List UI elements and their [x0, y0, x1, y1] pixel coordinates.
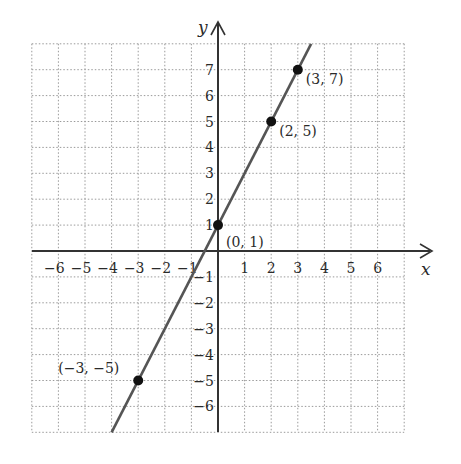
y-tick-label: −1 — [193, 269, 214, 285]
coordinate-plane: x y −6−5−4−3−2−1123456 7654321−1−2−3−4−5… — [0, 0, 461, 464]
x-axis-label: x — [421, 259, 431, 279]
x-tick-label: 6 — [373, 260, 382, 276]
y-tick-label: −4 — [193, 347, 214, 363]
y-tick-label: −3 — [193, 321, 214, 337]
y-tick-label: −6 — [193, 398, 214, 414]
x-tick-label: 2 — [267, 260, 276, 276]
x-tick-label: −6 — [44, 260, 65, 276]
y-tick-label: 3 — [205, 165, 214, 181]
y-tick-label: 1 — [205, 217, 214, 233]
y-tick-label: 4 — [205, 139, 214, 155]
point-label: (−3, −5) — [58, 360, 119, 376]
y-tick-label: −5 — [193, 373, 214, 389]
point-label: (0, 1) — [226, 234, 264, 250]
data-point — [293, 65, 303, 75]
data-point — [266, 117, 276, 127]
data-point — [133, 376, 143, 386]
point-label: (3, 7) — [306, 71, 344, 87]
point-label: (2, 5) — [279, 123, 317, 139]
y-tick-label: 6 — [205, 88, 214, 104]
y-axis-label: y — [197, 17, 208, 37]
y-tick-label: 5 — [205, 114, 214, 130]
x-tick-label: −5 — [71, 260, 92, 276]
x-tick-label: 3 — [293, 260, 302, 276]
x-tick-label: −2 — [150, 260, 171, 276]
y-tick-label: 7 — [205, 62, 214, 78]
x-tick-label: −4 — [97, 260, 118, 276]
y-tick-label: 2 — [205, 191, 214, 207]
x-tick-label: 4 — [320, 260, 329, 276]
x-tick-label: 1 — [240, 260, 249, 276]
y-tick-label: −2 — [193, 295, 214, 311]
x-tick-label: −3 — [124, 260, 145, 276]
x-tick-label: 5 — [347, 260, 356, 276]
data-point — [213, 220, 223, 230]
